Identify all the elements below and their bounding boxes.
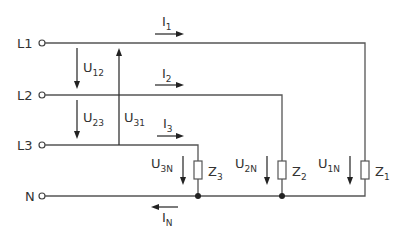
terminal-n [39, 193, 45, 199]
voltage-label-u12: U12 [83, 60, 104, 78]
arrowhead-icon [176, 133, 184, 139]
impedance-z2 [278, 161, 286, 179]
arrowhead-icon [347, 177, 353, 185]
arrowhead-icon [74, 131, 80, 139]
terminal-l2 [39, 92, 45, 98]
current-label-in: IN [162, 210, 173, 228]
arrowhead-icon [151, 204, 159, 210]
junction-dot-z2 [279, 193, 285, 199]
impedance-z3 [194, 161, 202, 179]
arrowhead-icon [180, 177, 186, 185]
current-label-i1: I1 [162, 14, 172, 32]
impedance-label-z1: Z1 [375, 164, 390, 182]
voltage-label-u2n: U2N [235, 156, 257, 174]
impedance-label-z2: Z2 [292, 164, 307, 182]
arrowhead-icon [176, 31, 184, 37]
terminal-label-l2: L2 [17, 88, 33, 103]
arrowhead-icon [116, 48, 122, 56]
terminal-label-n: N [25, 189, 35, 204]
arrowhead-icon [264, 177, 270, 185]
junction-dot-z3 [195, 193, 201, 199]
current-label-i3: I3 [163, 116, 173, 134]
terminal-l3 [39, 142, 45, 148]
terminal-label-l3: L3 [17, 138, 33, 153]
arrowhead-icon [176, 82, 184, 88]
voltage-label-u3n: U3N [151, 156, 173, 174]
terminal-l1 [39, 40, 45, 46]
terminal-label-l1: L1 [17, 36, 33, 51]
voltage-label-u1n: U1N [318, 156, 340, 174]
impedance-label-z3: Z3 [208, 164, 223, 182]
current-label-i2: I2 [162, 66, 172, 84]
arrowhead-icon [74, 81, 80, 89]
voltage-label-u31: U31 [124, 110, 145, 128]
circuit-diagram: L1 L2 L3 N Z3 Z2 Z1 I1 I2 I3 IN U12 U23 … [0, 0, 403, 236]
wire-l3 [45, 145, 198, 196]
voltage-label-u23: U23 [83, 110, 104, 128]
impedance-z1 [361, 161, 369, 179]
